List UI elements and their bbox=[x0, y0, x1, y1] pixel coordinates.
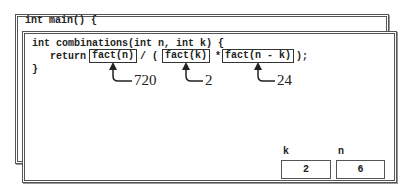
fact-n-minus-k-value: 24 bbox=[277, 73, 292, 88]
fact-k-value: 2 bbox=[205, 73, 213, 88]
variable-n-value-box: 6 bbox=[336, 160, 385, 179]
return-value-arrows-icon bbox=[0, 0, 415, 187]
fact-n-value: 720 bbox=[134, 73, 157, 88]
variable-n-label: n bbox=[338, 146, 344, 157]
variable-k-value-box: 2 bbox=[281, 160, 331, 179]
variable-k-label: k bbox=[283, 146, 289, 157]
